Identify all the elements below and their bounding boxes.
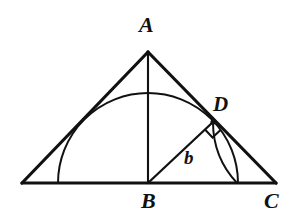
point-d-marker: [210, 119, 215, 124]
label-side-b: b: [184, 148, 194, 167]
label-vertex-a: A: [139, 14, 154, 36]
label-vertex-c: C: [264, 190, 279, 212]
segment-bd: [148, 122, 213, 183]
label-vertex-b: B: [141, 190, 156, 212]
label-vertex-d: D: [213, 94, 228, 115]
triangle-right-side: [148, 52, 276, 183]
geometry-figure: A B C D b: [0, 0, 293, 218]
